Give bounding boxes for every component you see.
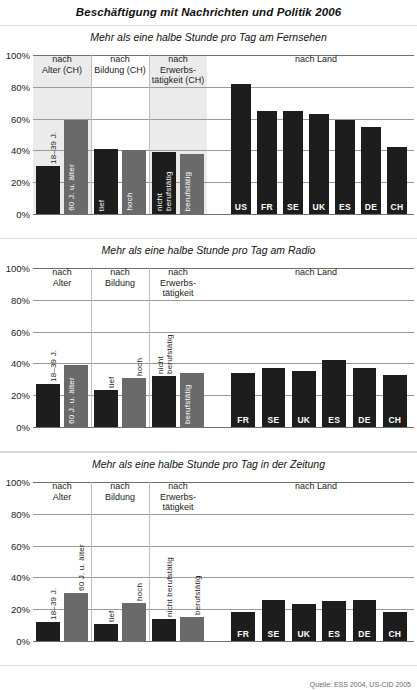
bar-label: hoch xyxy=(126,541,144,601)
bar-label: hoch xyxy=(126,316,144,376)
country-label: FR xyxy=(231,415,255,425)
bar-label: hoch xyxy=(126,153,144,211)
y-axis-tick: 0% xyxy=(16,422,30,433)
bar xyxy=(257,111,277,214)
gridline xyxy=(33,214,414,215)
group-label: nach Land xyxy=(218,267,414,278)
group-label: nach Land xyxy=(218,481,414,492)
bar-label: 18–39 J. xyxy=(40,560,58,620)
country-label: DE xyxy=(353,629,377,639)
group-divider xyxy=(91,482,92,641)
y-axis-tick: 100% xyxy=(6,50,30,61)
bar-label: nicht berufstätig xyxy=(156,314,174,374)
y-axis-tick: 40% xyxy=(11,145,30,156)
group-label: nach Alter xyxy=(33,481,91,502)
bar xyxy=(36,384,60,427)
y-axis-tick: 0% xyxy=(16,636,30,647)
bar xyxy=(64,593,88,641)
y-axis-tick: 40% xyxy=(11,572,30,583)
group-label: nach Erwerbs- tätigkeit (CH) xyxy=(149,54,207,86)
bar-label: berufstätig xyxy=(184,157,202,211)
country-label: US xyxy=(231,202,251,212)
plot-area: 100%80%60%40%20%0%nach Alter (CH)18–39 J… xyxy=(0,55,417,214)
y-axis-tick: 60% xyxy=(11,326,30,337)
chart-page: Beschäftigung mit Nachrichten und Politi… xyxy=(0,0,417,690)
group-label: nach Erwerbs- tätigkeit xyxy=(149,481,207,513)
bar-label: tief xyxy=(98,152,116,211)
country-label: SE xyxy=(283,202,303,212)
country-label: UK xyxy=(292,415,316,425)
bar-label: tief xyxy=(98,562,116,622)
country-label: DE xyxy=(353,415,377,425)
y-axis-tick: 100% xyxy=(6,477,30,488)
country-label: FR xyxy=(231,629,255,639)
bar xyxy=(94,390,118,427)
bar-label: 18–39 J. xyxy=(40,322,58,382)
group-label: nach Bildung xyxy=(91,481,149,502)
bar xyxy=(152,619,176,641)
country-label: ES xyxy=(335,202,355,212)
y-axis-tick: 80% xyxy=(11,508,30,519)
group-label: nach Land xyxy=(218,54,414,65)
country-label: ES xyxy=(322,629,346,639)
bar-label: 60 J. u. älter xyxy=(68,368,86,424)
group-label: nach Bildung (CH) xyxy=(91,54,149,75)
plot-area: 100%80%60%40%20%0%nach Alter18–39 J.60 J… xyxy=(0,482,417,641)
plot-area: 100%80%60%40%20%0%nach Alter18–39 J.60 J… xyxy=(0,268,417,427)
country-label: FR xyxy=(257,202,277,212)
bar-label: nicht berufstätig xyxy=(156,557,174,617)
bar xyxy=(152,376,176,427)
bar xyxy=(122,378,146,427)
y-axis-tick: 20% xyxy=(11,177,30,188)
y-axis-tick: 0% xyxy=(16,209,30,220)
chart-panel: Mehr als eine halbe Stunde pro Tag in de… xyxy=(0,452,417,666)
bar-label: tief xyxy=(98,328,116,388)
country-label: ES xyxy=(322,415,346,425)
bar xyxy=(335,120,355,214)
bar xyxy=(94,624,118,641)
country-label: CH xyxy=(383,415,407,425)
country-label: DE xyxy=(361,202,381,212)
bar xyxy=(122,603,146,641)
panel-title: Mehr als eine halbe Stunde pro Tag in de… xyxy=(0,458,417,470)
bar-label: 60 J. u. älter xyxy=(68,123,86,211)
group-label: nach Alter xyxy=(33,267,91,288)
group-label: nach Alter (CH) xyxy=(33,54,91,75)
country-label: SE xyxy=(262,629,286,639)
page-title: Beschäftigung mit Nachrichten und Politi… xyxy=(0,6,417,18)
panel-title: Mehr als eine halbe Stunde pro Tag am Ra… xyxy=(0,244,417,256)
bar xyxy=(309,114,329,214)
bar-label: nicht berufstätig xyxy=(156,155,174,211)
group-divider xyxy=(91,55,92,214)
source-note: Quelle: ESS 2004, US-CID 2005 xyxy=(310,681,411,688)
gridline xyxy=(33,641,414,642)
chart-panel: Mehr als eine halbe Stunde pro Tag am Fe… xyxy=(0,25,417,239)
y-axis-tick: 60% xyxy=(11,113,30,124)
bar xyxy=(361,127,381,214)
y-axis-tick: 100% xyxy=(6,263,30,274)
y-axis-tick: 80% xyxy=(11,294,30,305)
y-axis-tick: 20% xyxy=(11,604,30,615)
country-label: SE xyxy=(262,415,286,425)
bar-label: berufstätig xyxy=(184,376,202,424)
bar xyxy=(231,84,251,214)
bar xyxy=(36,166,60,214)
country-label: UK xyxy=(309,202,329,212)
y-axis-tick: 20% xyxy=(11,390,30,401)
group-label: nach Erwerbs- tätigkeit xyxy=(149,267,207,299)
y-axis-tick: 80% xyxy=(11,81,30,92)
bar xyxy=(36,622,60,641)
y-axis-tick: 40% xyxy=(11,358,30,369)
group-divider xyxy=(91,268,92,427)
country-label: CH xyxy=(387,202,407,212)
gridline xyxy=(33,427,414,428)
chart-panel: Mehr als eine halbe Stunde pro Tag am Ra… xyxy=(0,238,417,452)
bar-label: berufstätig xyxy=(184,555,202,615)
panel-title: Mehr als eine halbe Stunde pro Tag am Fe… xyxy=(0,31,417,43)
bar xyxy=(283,111,303,214)
y-axis-tick: 60% xyxy=(11,540,30,551)
bar xyxy=(180,617,204,641)
bar-label: 60 J. u. älter xyxy=(68,531,86,591)
country-label: UK xyxy=(292,629,316,639)
bar-label: 18–39 J. xyxy=(40,104,58,164)
